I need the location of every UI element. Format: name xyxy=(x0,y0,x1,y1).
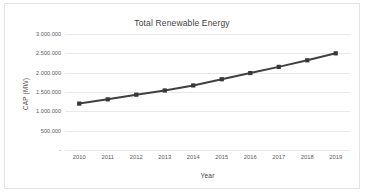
x-axis-tick-label: 2016 xyxy=(235,154,265,160)
data-point-marker xyxy=(305,58,309,62)
y-axis-tick-label: 1.500.000 xyxy=(9,89,61,95)
x-axis-tick-label: 2010 xyxy=(64,154,94,160)
plot-area xyxy=(65,34,350,150)
data-point-marker xyxy=(334,51,338,55)
chart-container: Total Renewable Energy CAP (MW) -500.000… xyxy=(4,3,360,189)
x-axis-tick-label: 2014 xyxy=(178,154,208,160)
x-axis-tick-label: 2018 xyxy=(292,154,322,160)
x-axis-tick-label: 2011 xyxy=(93,154,123,160)
data-series-line xyxy=(65,34,350,150)
y-axis-tick-label: - xyxy=(9,147,61,153)
y-axis-tick-label: 2.000.000 xyxy=(9,70,61,76)
data-point-marker xyxy=(134,93,138,97)
data-point-marker xyxy=(77,102,81,106)
y-axis-tick-labels: -500.0001.000.0001.500.0002.000.0002.500… xyxy=(5,34,61,150)
chart-title: Total Renewable Energy xyxy=(5,18,359,28)
data-point-marker xyxy=(220,77,224,81)
x-axis-tick-label: 2017 xyxy=(264,154,294,160)
x-axis-tick-label: 2015 xyxy=(207,154,237,160)
x-axis-tick-labels: 2010201120122013201420152016201720182019 xyxy=(65,154,350,166)
data-point-marker xyxy=(106,97,110,101)
x-axis-title: Year xyxy=(65,172,350,179)
x-axis-tick-label: 2013 xyxy=(150,154,180,160)
y-axis-tick-label: 2.500.000 xyxy=(9,50,61,56)
x-axis-tick-label: 2019 xyxy=(321,154,351,160)
y-axis-tick-label: 500.000 xyxy=(9,128,61,134)
data-point-marker xyxy=(191,83,195,87)
data-point-marker xyxy=(277,65,281,69)
x-axis-tick-label: 2012 xyxy=(121,154,151,160)
y-axis-tick-label: 1.000.000 xyxy=(9,108,61,114)
series-line xyxy=(79,53,336,103)
y-axis-tick-label: 3.000.000 xyxy=(9,31,61,37)
gridline xyxy=(65,150,350,151)
data-point-marker xyxy=(163,88,167,92)
data-point-marker xyxy=(248,71,252,75)
